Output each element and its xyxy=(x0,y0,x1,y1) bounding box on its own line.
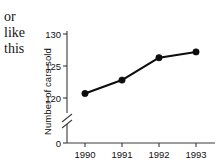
data-point-1992 xyxy=(156,54,162,60)
y-tick-label-130: 130 xyxy=(45,29,61,40)
x-tick-label-1991: 1991 xyxy=(111,149,132,160)
y-tick-label-125: 125 xyxy=(45,61,61,72)
data-point-1991 xyxy=(119,77,125,83)
x-tick-label-1990: 1990 xyxy=(74,149,95,160)
data-point-1993 xyxy=(193,49,199,55)
series-points xyxy=(82,49,199,97)
x-tick-label-1992: 1992 xyxy=(148,149,169,160)
x-tick-marks xyxy=(85,143,196,147)
series-line xyxy=(85,52,196,94)
data-point-1990 xyxy=(82,90,88,96)
x-tick-labels: 1990 1991 1992 1993 xyxy=(74,149,206,160)
y-tick-label-120: 120 xyxy=(45,93,61,104)
x-tick-label-1993: 1993 xyxy=(185,149,206,160)
line-chart: Number of cars sold 130 125 120 0 xyxy=(0,0,217,167)
y-tick-label-0: 0 xyxy=(56,138,61,149)
